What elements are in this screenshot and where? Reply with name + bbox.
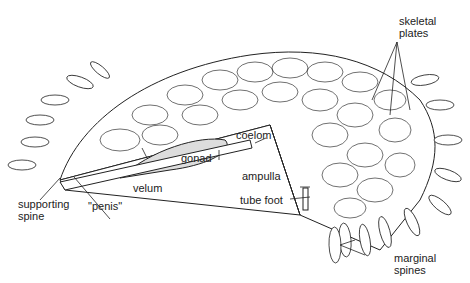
label-tube-foot: tube foot: [240, 194, 283, 206]
label-gonad: gonad: [181, 152, 212, 164]
label-ampulla: ampulla: [242, 170, 281, 182]
diagram-canvas: skeletal plates coelom gonad velum "peni…: [0, 0, 470, 283]
label-coelom: coelom: [236, 129, 271, 141]
label-supporting-spine-line2: spine: [18, 210, 44, 222]
label-velum: velum: [133, 182, 162, 194]
label-skeletal-plates-line2: plates: [399, 27, 428, 39]
label-supporting-spine-line1: supporting: [18, 198, 69, 210]
label-skeletal-plates-line1: skeletal: [399, 15, 436, 27]
label-marginal-spines-line1: marginal: [394, 252, 436, 264]
organism-illustration: [0, 0, 470, 283]
label-penis: "penis": [88, 200, 122, 212]
label-marginal-spines-line2: spines: [394, 264, 426, 276]
